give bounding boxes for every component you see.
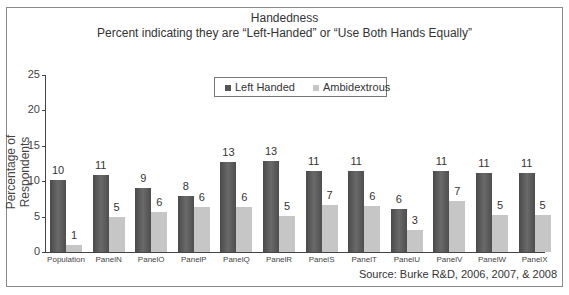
x-tick-label: PanelT xyxy=(342,255,386,264)
chart-subtitle: Percent indicating they are “Left-Handed… xyxy=(0,26,569,40)
data-label: 3 xyxy=(403,214,427,226)
data-label: 5 xyxy=(275,200,299,212)
data-label: 11 xyxy=(429,155,453,167)
data-label: 11 xyxy=(89,159,113,171)
y-tick-label: 0 xyxy=(20,245,40,257)
y-tick-mark xyxy=(42,252,45,253)
x-tick-label: PanelX xyxy=(513,255,557,264)
y-tick-mark xyxy=(42,110,45,111)
x-tick-label: PanelS xyxy=(300,255,344,264)
bar-ambidextrous xyxy=(194,207,210,252)
y-tick-label: 5 xyxy=(20,210,40,222)
data-label: 1 xyxy=(62,229,86,241)
y-tick-mark xyxy=(42,217,45,218)
bar-ambidextrous xyxy=(449,201,465,252)
legend-label-left-handed: Left Handed xyxy=(235,81,295,93)
legend-swatch-ambidextrous xyxy=(313,85,319,91)
data-label: 6 xyxy=(387,193,411,205)
bar-left-handed xyxy=(476,173,492,252)
data-label: 5 xyxy=(488,199,512,211)
data-label: 11 xyxy=(515,157,539,169)
data-label: 5 xyxy=(531,199,555,211)
bar-ambidextrous xyxy=(279,216,295,252)
data-label: 13 xyxy=(216,146,240,158)
bar-ambidextrous xyxy=(364,206,380,252)
bar-ambidextrous xyxy=(236,207,252,252)
data-label: 8 xyxy=(174,180,198,192)
bar-left-handed xyxy=(306,171,322,252)
data-label: 10 xyxy=(46,164,70,176)
bar-ambidextrous xyxy=(492,215,508,252)
y-tick-mark xyxy=(42,75,45,76)
bar-left-handed xyxy=(519,173,535,252)
legend: Left Handed Ambidextrous xyxy=(214,77,387,97)
x-tick-label: Population xyxy=(44,255,88,264)
bar-ambidextrous xyxy=(535,215,551,252)
bar-left-handed xyxy=(348,171,364,252)
bar-left-handed xyxy=(220,162,236,252)
data-label: 6 xyxy=(190,191,214,203)
y-tick-label: 15 xyxy=(20,139,40,151)
data-label: 11 xyxy=(302,155,326,167)
legend-swatch-left-handed xyxy=(225,85,231,91)
y-tick-label: 25 xyxy=(20,68,40,80)
data-label: 11 xyxy=(344,155,368,167)
data-label: 7 xyxy=(318,189,342,201)
bar-ambidextrous xyxy=(109,217,125,252)
x-tick-label: PanelW xyxy=(470,255,514,264)
x-tick-label: PanelQ xyxy=(214,255,258,264)
data-label: 13 xyxy=(259,145,283,157)
bar-ambidextrous xyxy=(322,205,338,252)
y-tick-label: 20 xyxy=(20,103,40,115)
x-tick-label: PanelU xyxy=(385,255,429,264)
data-label: 5 xyxy=(105,201,129,213)
y-tick-label: 10 xyxy=(20,174,40,186)
bar-ambidextrous xyxy=(151,212,167,252)
x-tick-label: PanelN xyxy=(87,255,131,264)
y-tick-mark xyxy=(42,181,45,182)
x-tick-label: PanelR xyxy=(257,255,301,264)
x-tick-label: PanelV xyxy=(427,255,471,264)
x-axis xyxy=(45,252,545,253)
bar-left-handed xyxy=(93,175,109,252)
data-label: 6 xyxy=(232,191,256,203)
y-tick-mark xyxy=(42,146,45,147)
data-label: 6 xyxy=(147,196,171,208)
source-note: Source: Burke R&D, 2006, 2007, & 2008 xyxy=(359,268,557,280)
bar-left-handed xyxy=(178,196,194,252)
data-label: 7 xyxy=(445,185,469,197)
x-tick-label: PanelO xyxy=(129,255,173,264)
data-label: 11 xyxy=(472,157,496,169)
data-label: 6 xyxy=(360,190,384,202)
data-label: 9 xyxy=(131,172,155,184)
bar-left-handed xyxy=(50,180,66,252)
legend-label-ambidextrous: Ambidextrous xyxy=(323,81,390,93)
bar-left-handed xyxy=(433,171,449,252)
chart-title: Handedness xyxy=(0,11,569,25)
x-tick-label: PanelP xyxy=(172,255,216,264)
bar-ambidextrous xyxy=(407,230,423,252)
bar-ambidextrous xyxy=(66,245,82,252)
